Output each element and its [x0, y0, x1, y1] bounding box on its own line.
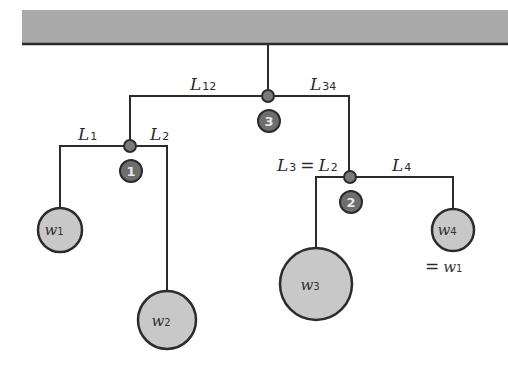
mobile-diagram: 3 1 2 L12 L34 L1 L2 L3=L2 L4 w1 w2 w3 w4…: [0, 0, 508, 368]
weight-w4-equality-note: =w1: [425, 256, 462, 276]
weight-w3: w3: [280, 248, 352, 320]
arm-label-L3-equals-L2: L3=L2: [276, 155, 338, 175]
joint-2: [344, 171, 356, 183]
weight-w4: w4: [432, 209, 474, 251]
ceiling: [22, 10, 508, 43]
arm-label-L34: L34: [309, 74, 336, 94]
pivot-number-2: 2: [346, 195, 355, 210]
pivot-badge-3: 3: [258, 110, 280, 132]
arm-label-L12: L12: [189, 74, 216, 94]
joint-3: [262, 90, 274, 102]
arm-label-L4: L4: [391, 155, 411, 175]
pivot-badge-1: 1: [120, 160, 142, 182]
arm-label-L2: L2: [149, 124, 169, 144]
arm-label-L1: L1: [77, 124, 97, 144]
weight-w2: w2: [138, 291, 196, 349]
pivot-number-1: 1: [126, 164, 135, 179]
joint-1: [124, 140, 136, 152]
pivot-badge-2: 2: [340, 191, 362, 213]
pivot-number-3: 3: [264, 114, 273, 129]
weight-w1: w1: [38, 208, 82, 252]
